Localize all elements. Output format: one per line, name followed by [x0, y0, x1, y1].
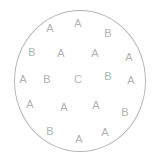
letter-label-b: B [121, 107, 128, 118]
letter-distribution-figure: AABBAAAABCBAAAABBAA [0, 0, 157, 162]
letter-label-b: B [28, 47, 35, 58]
letter-label-a: A [46, 23, 53, 34]
letter-label-a: A [26, 99, 33, 110]
letter-label-a: A [75, 134, 82, 145]
letter-label-a: A [19, 74, 26, 85]
letter-label-a: A [101, 127, 108, 138]
letter-label-b: B [46, 126, 53, 137]
letter-label-a: A [91, 48, 98, 59]
letter-label-a: A [74, 18, 81, 29]
letter-label-a: A [57, 48, 64, 59]
letter-label-b: B [104, 28, 111, 39]
letter-label-b: B [104, 71, 111, 82]
letter-label-a: A [60, 102, 67, 113]
letter-label-a: A [125, 52, 132, 63]
letter-label-a: A [92, 100, 99, 111]
letter-label-a: A [127, 75, 134, 86]
letter-label-c: C [74, 74, 82, 85]
letter-label-b: B [43, 74, 50, 85]
